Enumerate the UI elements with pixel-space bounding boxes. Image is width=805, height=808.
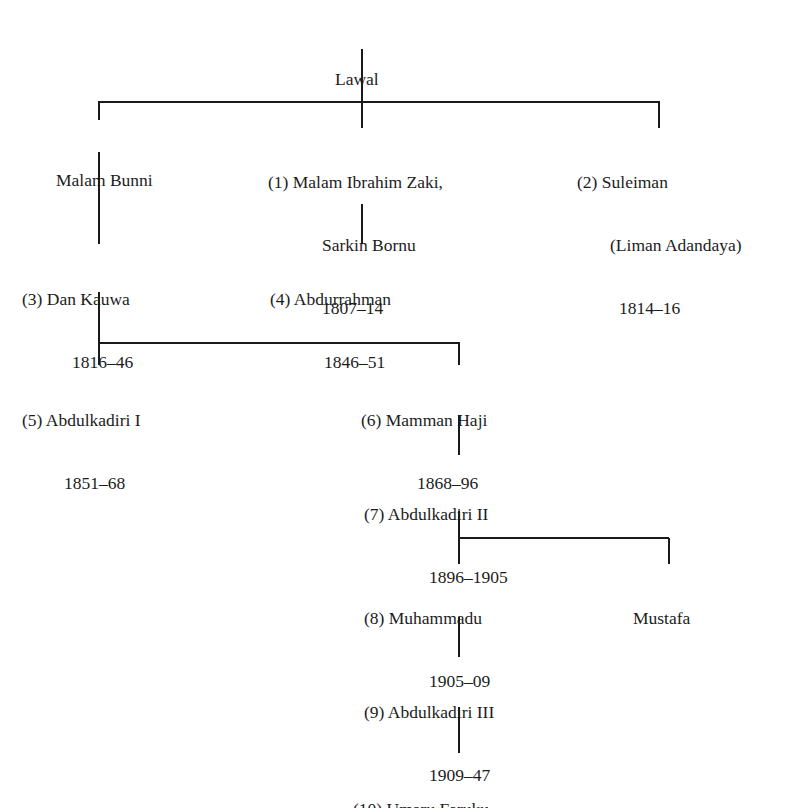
node-abdulkadiri-1: (5) Abdulkadiri I 1851–68: [22, 368, 141, 515]
connector-mustafa-drop: [668, 538, 670, 564]
node-name: (10) Umaru Faruku: [353, 799, 489, 808]
node-name: (1) Malam Ibrahim Zaki,: [268, 172, 443, 193]
node-title: (Liman Adandaya): [577, 235, 742, 256]
node-name: Lawal: [335, 69, 379, 90]
node-reign: 1814–16: [577, 298, 742, 319]
node-suleiman: (2) Suleiman (Liman Adandaya) 1814–16: [577, 130, 742, 340]
connector-suleiman-drop: [658, 102, 660, 128]
node-name: (6) Mamman Haji: [361, 410, 487, 431]
node-name: (4) Abdurrahman: [270, 289, 391, 310]
node-name: (9) Abdulkadiri III: [364, 702, 494, 723]
connector-lawal-children-bar: [98, 101, 660, 103]
node-name: (8) Muhammadu: [364, 608, 490, 629]
node-reign: 1851–68: [22, 473, 141, 494]
node-name: Malam Bunni: [56, 170, 153, 191]
connector-mamman-haji-drop: [458, 343, 460, 365]
node-name: Mustafa: [633, 608, 690, 629]
node-mustafa: Mustafa: [633, 566, 690, 650]
node-name: (2) Suleiman: [577, 172, 742, 193]
node-malam-bunni: Malam Bunni: [56, 128, 153, 212]
node-lawal: Lawal: [335, 27, 379, 111]
node-name: (7) Abdulkadiri II: [364, 504, 508, 525]
node-umaru-faruku: (10) Umaru Faruku 1947–: [353, 757, 489, 808]
node-name: (5) Abdulkadiri I: [22, 410, 141, 431]
connector-malam-bunni-drop: [98, 102, 100, 120]
node-name: (3) Dan Kauwa: [22, 289, 133, 310]
